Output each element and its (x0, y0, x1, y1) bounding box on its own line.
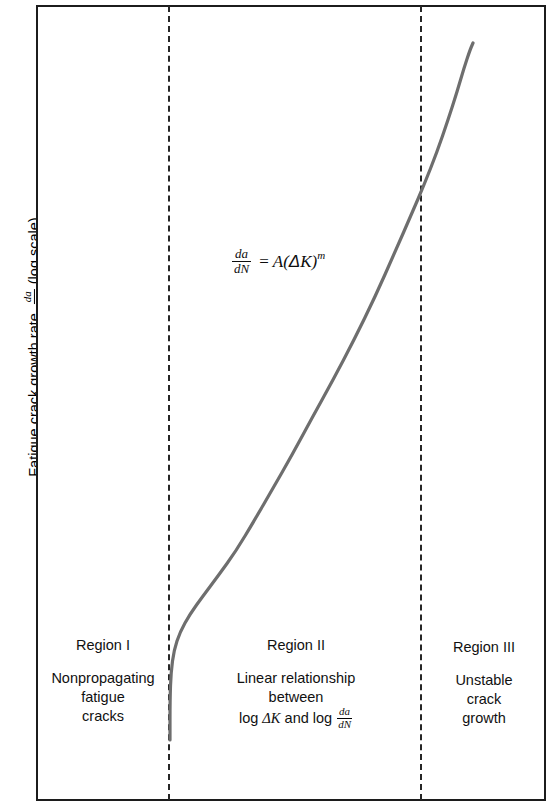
region-2-line-1: Linear relationship (176, 669, 416, 688)
region-2-fraction-denominator: dN (337, 719, 352, 731)
region-divider-2 (420, 6, 422, 800)
region-1-line-2: fatigue (36, 688, 170, 707)
region-2-dadn-fraction: da dN (337, 706, 352, 730)
region-3-description: Unstable crack growth (424, 671, 544, 728)
region-2-annotation: Region II Linear relationship between lo… (176, 636, 416, 731)
equation-variable-k: K (300, 252, 311, 271)
region-1-title: Region I (36, 636, 170, 655)
region-2-line-2: between (176, 688, 416, 707)
equation-delta-symbol: Δ (289, 252, 300, 271)
region-2-title: Region II (176, 636, 416, 655)
paris-law-equation: da dN =A(ΔK)m (232, 247, 325, 276)
equation-lhs-denominator: dN (232, 262, 251, 276)
region-1-description: Nonpropagating fatigue cracks (36, 669, 170, 726)
equation-coefficient: A (273, 252, 283, 271)
region-3-title: Region III (424, 638, 544, 657)
region-3-line-1: Unstable (424, 671, 544, 690)
fatigue-crack-growth-figure: Fatigue crack growth rate, da dN (log sc… (0, 0, 546, 812)
region-2-log-prefix: log (239, 710, 262, 726)
region-2-line-3: log ΔK and log da dN (176, 707, 416, 731)
region-3-line-3: growth (424, 709, 544, 728)
region-2-and-log: and log (281, 710, 337, 726)
y-axis-fraction-numerator: da (22, 289, 35, 304)
equation-exponent: m (317, 249, 325, 261)
region-1-line-1: Nonpropagating (36, 669, 170, 688)
region-3-line-2: crack (424, 690, 544, 709)
equation-lhs-fraction: da dN (232, 247, 251, 276)
region-1-annotation: Region I Nonpropagating fatigue cracks (36, 636, 170, 727)
equation-lhs-numerator: da (232, 247, 251, 262)
region-2-description: Linear relationship between log ΔK and l… (176, 669, 416, 731)
region-3-annotation: Region III Unstable crack growth (424, 638, 544, 729)
region-1-line-3: cracks (36, 707, 170, 726)
region-2-delta-k: ΔK (262, 710, 280, 726)
equation-equals-sign: = (259, 252, 269, 271)
